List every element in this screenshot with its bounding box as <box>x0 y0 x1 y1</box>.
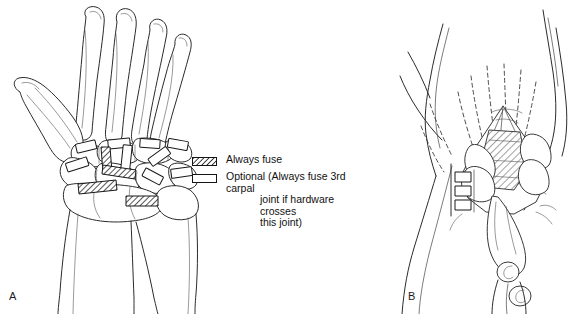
ulna <box>136 214 198 314</box>
legend-label-text: Always fuse <box>226 153 282 165</box>
legend-label-line3: this joint) <box>226 217 372 229</box>
panel-label-a: A <box>9 291 17 302</box>
figure-illustration: Always fuse Optional (Always fuse 3rd ca… <box>0 0 571 314</box>
outline-swatch <box>192 174 217 183</box>
legend-label-text: Optional (Always fuse 3rd carpal <box>226 170 346 194</box>
legend-label: Optional (Always fuse 3rd carpal joint i… <box>226 171 372 229</box>
legend-label: Always fuse <box>226 154 282 166</box>
metacarpal-middle <box>105 9 136 145</box>
plate-bar <box>455 200 471 210</box>
legend: Always fuse Optional (Always fuse 3rd ca… <box>192 154 372 234</box>
screw-heads <box>497 262 531 306</box>
plate-bar <box>455 186 471 196</box>
hardware-plates-panel-b <box>451 164 474 216</box>
legend-label-line2: joint if hardware crosses <box>226 194 372 217</box>
legend-item: Always fuse <box>192 154 372 166</box>
plate-always-fuse <box>126 196 158 206</box>
metacarpal-index <box>75 7 104 141</box>
legend-item: Optional (Always fuse 3rd carpal joint i… <box>192 171 372 229</box>
panel-a-group <box>14 7 198 314</box>
plate-optional <box>121 145 133 171</box>
plate-optional <box>140 138 161 148</box>
panel-label-b: B <box>408 291 416 302</box>
radius <box>58 210 134 314</box>
hatched-swatch-fill <box>193 158 216 165</box>
soft-tissue-radial <box>400 24 452 314</box>
hatched-swatch <box>192 157 217 166</box>
plate-bar <box>455 172 471 182</box>
panel-b-group <box>400 10 567 314</box>
